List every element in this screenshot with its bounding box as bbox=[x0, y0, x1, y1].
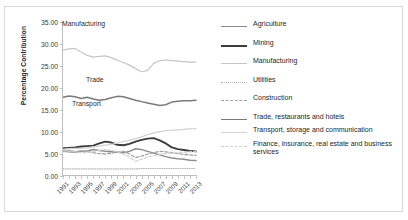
legend-item-label: Utilities bbox=[253, 76, 276, 84]
legend-item[interactable]: Construction bbox=[221, 94, 397, 105]
legend-item[interactable]: Agriculture bbox=[221, 20, 397, 31]
plot-area: 0.005.0010.0015.0020.0025.0030.0035.00 1… bbox=[62, 22, 197, 176]
y-tick-label: 30.00 bbox=[41, 41, 58, 48]
chart-legend: AgricultureMiningManufacturingUtilitiesC… bbox=[221, 20, 397, 159]
x-tick bbox=[99, 176, 100, 179]
x-tick bbox=[93, 176, 94, 179]
manufacturing-line-key bbox=[221, 59, 247, 68]
series-lines bbox=[62, 22, 197, 176]
legend-item-label: Agriculture bbox=[253, 20, 286, 28]
legend-item-label: Trade, restaurants and hotels bbox=[253, 113, 344, 121]
finance-line-key bbox=[221, 142, 247, 151]
x-tick bbox=[117, 176, 118, 179]
legend-item-label: Manufacturing bbox=[253, 57, 297, 65]
x-tick bbox=[63, 176, 64, 179]
y-tick-label: 5.00 bbox=[45, 151, 58, 158]
y-tick-label: 20.00 bbox=[41, 85, 58, 92]
x-tick bbox=[148, 176, 149, 179]
y-tick bbox=[60, 66, 63, 67]
y-tick bbox=[60, 88, 63, 89]
legend-item-label: Transport, storage and communication bbox=[253, 126, 373, 134]
x-tick bbox=[81, 176, 82, 179]
legend-item[interactable]: Utilities bbox=[221, 76, 397, 87]
y-axis-title: Percentage Contribution bbox=[20, 6, 27, 126]
x-tick bbox=[160, 176, 161, 179]
y-tick bbox=[60, 132, 63, 133]
x-tick bbox=[172, 176, 173, 179]
agriculture-line-key bbox=[221, 22, 247, 31]
x-tick bbox=[190, 176, 191, 179]
series-line-manufacturing bbox=[63, 48, 196, 71]
x-tick bbox=[142, 176, 143, 179]
x-tick bbox=[196, 176, 197, 179]
legend-item-label: Finance, insurance, real estate and busi… bbox=[253, 140, 397, 157]
y-tick-label: 25.00 bbox=[41, 63, 58, 70]
x-tick bbox=[154, 176, 155, 179]
x-tick bbox=[123, 176, 124, 179]
construction-line-key bbox=[221, 96, 247, 105]
x-tick bbox=[130, 176, 131, 179]
y-tick-label: 0.00 bbox=[45, 173, 58, 180]
y-tick-label: 10.00 bbox=[41, 129, 58, 136]
legend-item[interactable]: Finance, insurance, real estate and busi… bbox=[221, 140, 397, 157]
chart-figure: Percentage Contribution 0.005.0010.0015.… bbox=[0, 0, 408, 220]
x-tick bbox=[166, 176, 167, 179]
legend-item[interactable]: Manufacturing bbox=[221, 57, 397, 68]
annotation-manufacturing: Manufacturing bbox=[62, 20, 105, 27]
legend-item[interactable]: Mining bbox=[221, 39, 397, 50]
y-axis-line bbox=[62, 22, 63, 176]
mining-line-key bbox=[221, 41, 247, 50]
x-tick bbox=[184, 176, 185, 179]
legend-item[interactable]: Trade, restaurants and hotels bbox=[221, 113, 397, 124]
x-tick bbox=[111, 176, 112, 179]
utilities-line-key bbox=[221, 78, 247, 87]
transport-line-key bbox=[221, 128, 247, 137]
legend-item-label: Construction bbox=[253, 94, 292, 102]
y-tick bbox=[60, 44, 63, 45]
x-tick bbox=[178, 176, 179, 179]
x-tick bbox=[75, 176, 76, 179]
annotation-transport: Transport bbox=[72, 100, 101, 107]
trade-line-key bbox=[221, 115, 247, 124]
x-tick bbox=[69, 176, 70, 179]
legend-item-label: Mining bbox=[253, 39, 274, 47]
y-tick bbox=[60, 154, 63, 155]
x-tick bbox=[136, 176, 137, 179]
x-tick bbox=[105, 176, 106, 179]
y-tick-label: 15.00 bbox=[41, 107, 58, 114]
x-tick bbox=[87, 176, 88, 179]
legend-item[interactable]: Transport, storage and communication bbox=[221, 126, 397, 137]
y-tick-label: 35.00 bbox=[41, 19, 58, 26]
y-tick bbox=[60, 110, 63, 111]
annotation-trade: Trade bbox=[86, 76, 104, 83]
